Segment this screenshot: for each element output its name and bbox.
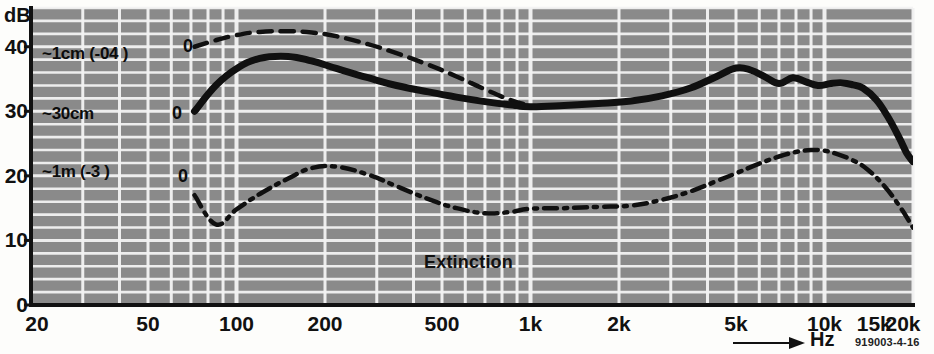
y-axis-tick-10: 10	[0, 228, 28, 252]
x-axis-tick-1k: 1k	[519, 312, 542, 336]
y-axis-tick-30: 30	[0, 99, 28, 123]
x-axis-title: Hz	[810, 328, 834, 351]
x-axis-tick-100: 100	[219, 312, 254, 336]
y-axis-tick-labels: 010203040	[0, 0, 28, 354]
zero-marker-1cm: 0	[183, 36, 193, 57]
extinction-annotation: Extinction	[424, 252, 513, 273]
x-axis-tick-50: 50	[136, 312, 159, 336]
x-axis-tick-200: 200	[307, 312, 342, 336]
x-axis-tick-2k: 2k	[607, 312, 630, 336]
zero-marker-1m: 0	[178, 166, 188, 187]
y-axis-tick-20: 20	[0, 164, 28, 188]
zero-marker-30cm: 0	[172, 103, 182, 124]
y-axis-tick-40: 40	[0, 35, 28, 59]
y-axis-tick-0: 0	[0, 293, 28, 317]
series-label-1cm: ~1cm (-04 )	[42, 44, 128, 64]
x-axis-arrow-icon	[733, 336, 805, 350]
series-label-1m: ~1m (-3 )	[42, 162, 110, 182]
x-axis-tick-500: 500	[424, 312, 459, 336]
series-label-30cm: ~30cm	[42, 104, 94, 124]
frequency-response-chart: dB 010203040 20501002005001k2k5k10k15k20…	[0, 0, 934, 354]
reference-code: 919003-4-16	[855, 336, 920, 348]
plot-area	[0, 0, 934, 354]
x-axis-tick-20: 20	[25, 312, 48, 336]
x-axis-tick-20k: 20k	[885, 312, 920, 336]
x-axis-tick-5k: 5k	[724, 312, 747, 336]
